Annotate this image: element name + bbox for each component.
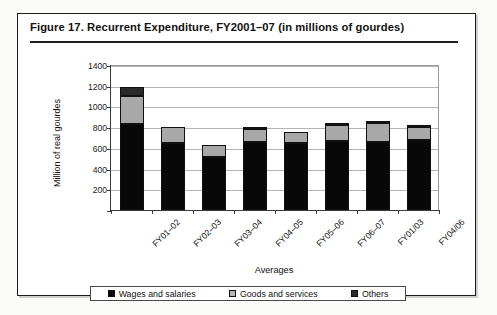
- bar-series-layer: [111, 66, 438, 210]
- figure-container: Figure 17. Recurrent Expenditure, FY2001…: [17, 13, 476, 296]
- legend-label-goods: Goods and services: [240, 289, 318, 299]
- legend-item-goods: Goods and services: [229, 289, 318, 299]
- bar-segment-goods-FY02–03: [161, 127, 185, 143]
- bar-FY04–05: [243, 65, 267, 210]
- bar-segment-others-FY06–07: [325, 123, 349, 125]
- bar-FY03–04: [202, 65, 226, 210]
- bar-FY04/06: [407, 65, 431, 210]
- bar-segment-wages-FY04–05: [243, 142, 267, 210]
- plot-frame-right: [438, 65, 439, 210]
- bar-segment-others-FY01/03: [366, 121, 390, 123]
- bar-segment-goods-FY06–07: [325, 125, 349, 141]
- bar-segment-wages-FY06–07: [325, 141, 349, 210]
- bar-segment-goods-FY03–04: [202, 145, 226, 157]
- x-tick-mark-1: [152, 210, 153, 214]
- chart-legend: Wages and salariesGoods and servicesOthe…: [90, 286, 406, 301]
- x-axis-title: Averages: [110, 265, 438, 275]
- x-axis-label-FY06–07: FY06–07: [355, 217, 387, 249]
- y-tick-label-1000: 1000: [88, 102, 107, 112]
- legend-swatch-wages-icon: [108, 290, 115, 297]
- bar-FY06–07: [325, 65, 349, 210]
- x-tick-mark-2: [193, 210, 194, 214]
- bar-segment-goods-FY04–05: [243, 129, 267, 142]
- bar-segment-goods-FY05–06: [284, 132, 308, 143]
- legend-label-others: Others: [362, 289, 388, 299]
- x-axis-label-FY04–05: FY04–05: [273, 217, 305, 249]
- x-tick-mark-4: [275, 210, 276, 214]
- x-axis-label-FY05–06: FY05–06: [314, 217, 346, 249]
- bar-segment-wages-FY01–02: [120, 124, 144, 210]
- x-axis-label-FY02–03: FY02–03: [191, 217, 223, 249]
- y-tick-label-200: 200: [93, 185, 107, 195]
- bar-segment-goods-FY01/03: [366, 123, 390, 142]
- y-tick-label-1400: 1400: [88, 61, 107, 71]
- bar-FY01/03: [366, 65, 390, 210]
- y-axis-label: Million of real gourdes: [52, 68, 62, 218]
- x-tick-mark-6: [357, 210, 358, 214]
- legend-label-wages: Wages and salaries: [119, 289, 196, 299]
- x-axis-label-FY01–02: FY01–02: [150, 217, 182, 249]
- bar-FY01–02: [120, 65, 144, 210]
- bar-segment-wages-FY01/03: [366, 142, 390, 210]
- y-tick-label-600: 600: [93, 144, 107, 154]
- legend-item-wages: Wages and salaries: [108, 289, 196, 299]
- x-tick-mark-5: [316, 210, 317, 214]
- chart-area: Million of real gourdes 2004006008001000…: [18, 48, 477, 294]
- legend-item-others: Others: [351, 289, 388, 299]
- x-axis-label-FY04/06: FY04/06: [436, 217, 466, 247]
- legend-swatch-goods-icon: [229, 290, 236, 297]
- bar-segment-wages-FY02–03: [161, 143, 185, 210]
- bar-segment-goods-FY04/06: [407, 127, 431, 139]
- x-tick-mark-0: [111, 210, 112, 214]
- bar-segment-wages-FY04/06: [407, 140, 431, 210]
- x-axis-label-FY03–04: FY03–04: [232, 217, 264, 249]
- title-divider: [30, 41, 458, 43]
- y-tick-label-1200: 1200: [88, 82, 107, 92]
- x-tick-mark-7: [398, 210, 399, 214]
- bar-FY02–03: [161, 65, 185, 210]
- y-tick-label-800: 800: [93, 123, 107, 133]
- figure-title: Figure 17. Recurrent Expenditure, FY2001…: [30, 21, 462, 33]
- x-tick-mark-3: [234, 210, 235, 214]
- bar-segment-wages-FY03–04: [202, 157, 226, 210]
- x-tick-mark-end: [439, 210, 440, 214]
- bar-segment-others-FY04–05: [243, 127, 267, 129]
- x-axis-label-FY01/03: FY01/03: [395, 217, 425, 247]
- y-tick-label-400: 400: [93, 165, 107, 175]
- bar-segment-others-FY04/06: [407, 125, 431, 127]
- plot-region: 200400600800100012001400: [110, 66, 438, 211]
- bar-FY05–06: [284, 65, 308, 210]
- bar-segment-wages-FY05–06: [284, 143, 308, 210]
- legend-swatch-others-icon: [351, 290, 358, 297]
- bar-segment-goods-FY01–02: [120, 96, 144, 124]
- bar-segment-others-FY01–02: [120, 87, 144, 96]
